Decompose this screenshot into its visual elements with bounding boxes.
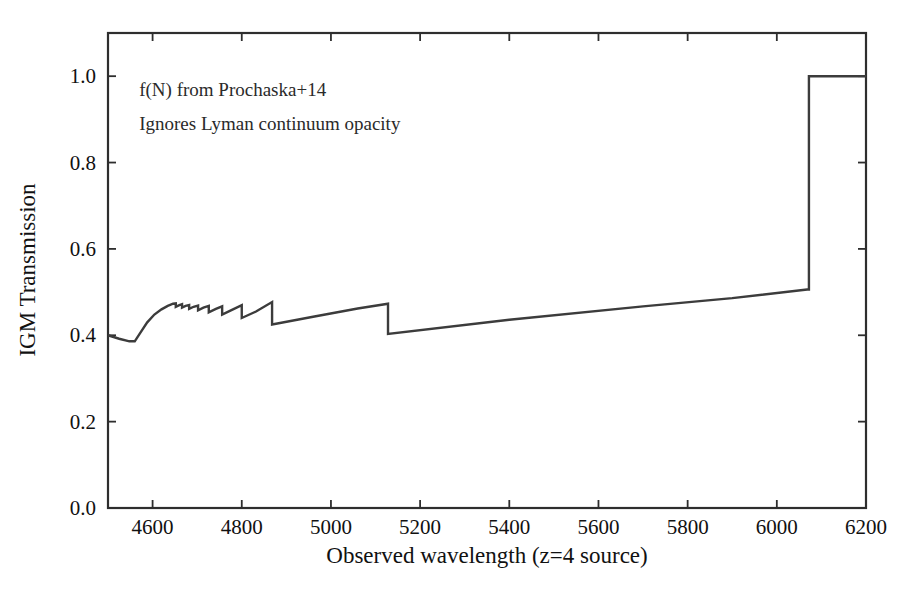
x-axis-title: Observed wavelength (z=4 source) [326, 543, 647, 568]
y-axis-title: IGM Transmission [15, 183, 40, 357]
y-tick-label: 0.8 [70, 151, 96, 175]
y-tick-label: 0.2 [70, 410, 96, 434]
x-tick-label: 5400 [488, 515, 530, 539]
x-tick-label: 4800 [221, 515, 263, 539]
y-tick-label: 0.4 [70, 323, 97, 347]
x-tick-label: 5000 [310, 515, 352, 539]
chart-background [0, 0, 915, 604]
annotation-text-1: f(N) from Prochaska+14 [139, 79, 326, 101]
x-tick-label: 5600 [577, 515, 619, 539]
y-tick-label: 0.0 [70, 496, 96, 520]
x-tick-label: 5800 [667, 515, 709, 539]
x-tick-label: 5200 [399, 515, 441, 539]
x-tick-label: 6000 [756, 515, 798, 539]
x-tick-label: 6200 [845, 515, 887, 539]
y-tick-label: 0.6 [70, 237, 96, 261]
figure-canvas: 460048005000520054005600580060006200 0.0… [0, 0, 915, 604]
annotation-text-2: Ignores Lyman continuum opacity [139, 113, 401, 134]
x-axis-tick-labels: 460048005000520054005600580060006200 [132, 515, 887, 539]
igm-transmission-chart: 460048005000520054005600580060006200 0.0… [0, 0, 915, 604]
y-tick-label: 1.0 [70, 64, 96, 88]
x-tick-label: 4600 [132, 515, 174, 539]
